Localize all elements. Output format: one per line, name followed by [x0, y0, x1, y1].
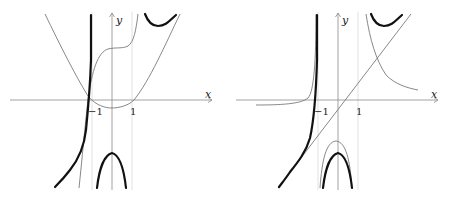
y-axis-label: y: [341, 14, 349, 27]
parabola-curve: [45, 14, 180, 108]
tick-one: 1: [356, 106, 362, 117]
tick-minus-one: −1: [88, 106, 103, 117]
tick-minus-one: −1: [314, 106, 329, 117]
thin-curve-right: [366, 14, 418, 90]
x-axis-label: x: [205, 88, 212, 101]
rational-branch-middle: [97, 153, 126, 188]
left-graph-panel: y x −1 1: [0, 0, 226, 202]
right-graph: y x −1 1: [226, 0, 452, 202]
x-axis-label: x: [431, 88, 438, 101]
rational-branch-left: [55, 15, 91, 187]
rational-branch-left: [279, 15, 317, 187]
left-graph: y x −1 1: [0, 0, 226, 202]
right-graph-panel: y x −1 1: [226, 0, 452, 202]
tick-one: 1: [130, 106, 136, 117]
y-axis-label: y: [115, 14, 123, 27]
thin-curve-left: [256, 14, 316, 105]
rational-branch-right: [145, 14, 176, 26]
rational-branch-right: [371, 14, 402, 26]
